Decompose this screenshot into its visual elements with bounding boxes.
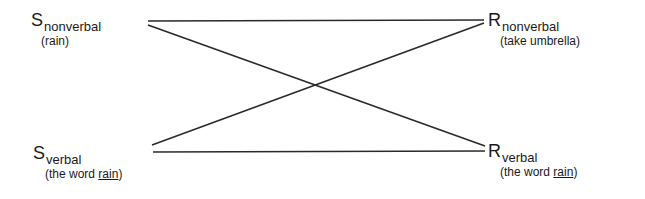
gloss-label: (the word rain): [45, 167, 122, 181]
edge-s-nonverbal-to-r-nonverbal: [148, 20, 484, 21]
node-r-verbal: Rverbal (the word rain): [488, 143, 577, 179]
node-s-verbal: Sverbal (the word rain): [33, 145, 122, 181]
gloss-label: (rain): [41, 34, 101, 48]
response-symbol: R: [488, 10, 501, 30]
subscript-label: verbal: [46, 152, 81, 167]
stimulus-symbol: S: [33, 143, 45, 163]
gloss-label: (take umbrella): [500, 34, 580, 48]
edge-s-verbal-to-r-verbal: [153, 151, 485, 152]
node-r-nonverbal: Rnonverbal (take umbrella): [488, 12, 580, 48]
stimulus-symbol: S: [31, 10, 43, 30]
edge-s-verbal-to-r-nonverbal: [152, 23, 484, 145]
subscript-label: nonverbal: [502, 19, 559, 34]
node-s-nonverbal: Snonverbal (rain): [31, 12, 101, 48]
response-symbol: R: [488, 141, 501, 161]
underlined-word: rain: [98, 167, 118, 181]
subscript-label: verbal: [502, 150, 537, 165]
gloss-label: (the word rain): [500, 165, 577, 179]
underlined-word: rain: [553, 165, 573, 179]
subscript-label: nonverbal: [44, 19, 101, 34]
